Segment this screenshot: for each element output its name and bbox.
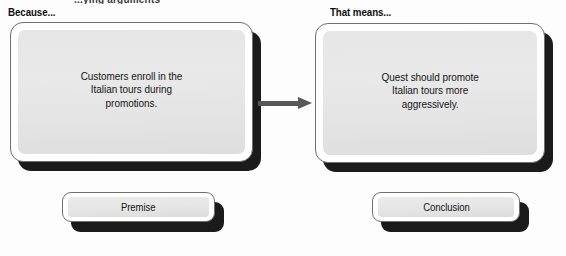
premise-tab[interactable]: Premise	[62, 192, 215, 222]
conclusion-tab-frame[interactable]: Conclusion	[372, 192, 520, 222]
conclusion-tab-label: Conclusion	[423, 202, 470, 213]
arrow-shaft	[258, 101, 300, 106]
conclusion-panel: Quest should promote Italian tours more …	[315, 23, 545, 163]
conclusion-panel-text: Quest should promote Italian tours more …	[370, 71, 490, 112]
premise-tab-inner: Premise	[68, 197, 209, 217]
arrow-right-icon	[258, 97, 314, 109]
diagram-canvas: ...ying arguments Because... Customers e…	[0, 0, 566, 256]
premise-panel: Customers enroll in the Italian tours du…	[10, 22, 253, 162]
conclusion-tab[interactable]: Conclusion	[372, 192, 520, 222]
premise-panel-inner: Customers enroll in the Italian tours du…	[18, 30, 245, 154]
premise-tab-frame[interactable]: Premise	[62, 192, 215, 222]
conclusion-panel-frame: Quest should promote Italian tours more …	[315, 23, 545, 163]
step-label-that-means: That means...	[330, 6, 391, 18]
conclusion-panel-inner: Quest should promote Italian tours more …	[323, 31, 537, 155]
cut-off-running-header: ...ying arguments	[74, 0, 264, 4]
premise-tab-label: Premise	[121, 202, 156, 213]
conclusion-tab-inner: Conclusion	[378, 197, 514, 217]
arrow-head	[298, 97, 312, 109]
premise-panel-text: Customers enroll in the Italian tours du…	[69, 70, 193, 111]
premise-panel-frame: Customers enroll in the Italian tours du…	[10, 22, 253, 162]
step-label-because: Because...	[8, 6, 55, 18]
